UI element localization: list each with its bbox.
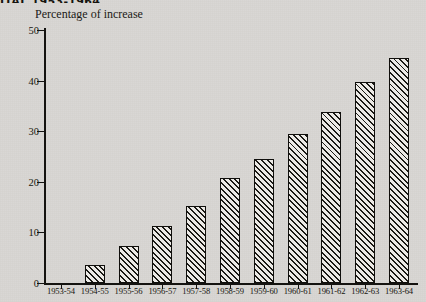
bar-slot (281, 30, 315, 283)
x-tick-label-1960-61: 1960-61 (284, 286, 312, 296)
bar-slot (112, 30, 146, 283)
bar-slot (315, 30, 349, 283)
y-tick-label: 0 (34, 278, 39, 289)
bar-series (44, 30, 416, 283)
bar-slot (213, 30, 247, 283)
bar-1955-56 (119, 246, 139, 283)
bar-1954-55 (85, 265, 105, 283)
bar-1962-63 (355, 82, 375, 283)
x-axis-tick-labels: 1953-541954-551955-561956-571957-581958-… (44, 286, 416, 300)
figure-headline: ITAL 1953-1964 (0, 0, 100, 3)
bar-1960-61 (288, 134, 308, 283)
x-tick-label-1961-62: 1961-62 (317, 286, 345, 296)
bar-slot (179, 30, 213, 283)
y-tick-label: 10 (29, 227, 40, 238)
x-axis-line (44, 283, 418, 285)
bar-slot (382, 30, 416, 283)
x-tick-label-1957-58: 1957-58 (182, 286, 210, 296)
chart-figure: ITAL 1953-1964 Percentage of increase 01… (0, 0, 426, 302)
bar-1961-62 (321, 112, 341, 283)
x-tick-label-1955-56: 1955-56 (115, 286, 143, 296)
y-tick-label: 50 (29, 25, 40, 36)
bar-1959-60 (254, 159, 274, 283)
y-tick-label: 30 (29, 126, 40, 137)
bar-1957-58 (186, 206, 206, 283)
bar-slot (44, 30, 78, 283)
y-tick-label: 20 (29, 176, 40, 187)
x-tick-label-1953-54: 1953-54 (47, 286, 75, 296)
bar-1958-59 (220, 178, 240, 283)
bar-slot (78, 30, 112, 283)
x-tick-label-1963-64: 1963-64 (385, 286, 413, 296)
bar-slot (145, 30, 179, 283)
x-tick-label-1959-60: 1959-60 (250, 286, 278, 296)
bar-1956-57 (152, 226, 172, 283)
x-tick-label-1962-63: 1962-63 (351, 286, 379, 296)
plot-area: 01020304050 (44, 30, 416, 283)
bar-slot (247, 30, 281, 283)
bar-1963-64 (389, 58, 409, 283)
x-tick-label-1958-59: 1958-59 (216, 286, 244, 296)
y-tick-label: 40 (29, 75, 40, 86)
x-tick-label-1954-55: 1954-55 (81, 286, 109, 296)
y-axis-label: Percentage of increase (35, 7, 143, 22)
bar-slot (348, 30, 382, 283)
x-tick-label-1956-57: 1956-57 (148, 286, 176, 296)
